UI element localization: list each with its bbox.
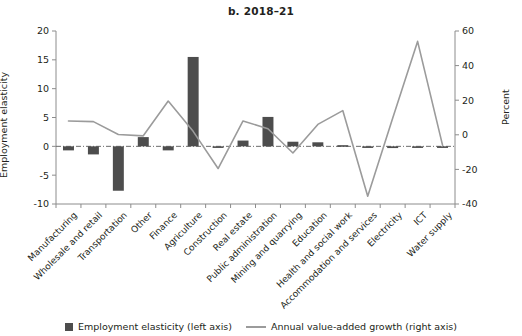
chart-title: b. 2018–21 — [0, 5, 522, 17]
bar-real-estate — [238, 141, 249, 147]
svg-text:10: 10 — [37, 83, 49, 94]
bar-other — [138, 137, 149, 146]
bar-wholesale-and-retail — [88, 146, 99, 154]
svg-text:0: 0 — [43, 141, 49, 152]
svg-text:-40: -40 — [462, 198, 478, 209]
bar-electricity — [387, 146, 398, 148]
svg-text:20: 20 — [462, 95, 474, 106]
line-swatch-icon — [246, 326, 266, 328]
svg-text:20: 20 — [37, 25, 49, 36]
svg-text:5: 5 — [43, 112, 49, 123]
right-axis-title: Percent — [500, 89, 511, 125]
bar-transportation — [113, 146, 124, 190]
bar-mining-and-quarrying — [287, 142, 298, 147]
legend-item-line: Annual value-added growth (right axis) — [246, 321, 457, 332]
axis-layer: 20151050-5-106040200-20-40 — [33, 25, 477, 209]
bar-education — [312, 142, 323, 146]
bar-construction — [213, 146, 224, 148]
bar-accommodation-and-services — [362, 146, 373, 148]
chart-legend: Employment elasticity (left axis) Annual… — [0, 321, 522, 332]
value-added-growth-line — [68, 41, 442, 196]
legend-label-line: Annual value-added growth (right axis) — [271, 321, 457, 332]
chart-root: b. 2018–21 Employment elasticity Percent… — [0, 0, 522, 336]
plot-area: 20151050-5-106040200-20-40 — [56, 31, 455, 204]
bar-finance — [163, 146, 174, 150]
line-series-value-added-growth — [68, 41, 442, 196]
chart-canvas: 20151050-5-106040200-20-40 — [56, 31, 455, 204]
bar-ict — [412, 146, 423, 148]
svg-text:15: 15 — [37, 54, 49, 65]
svg-text:-20: -20 — [462, 164, 478, 175]
svg-text:60: 60 — [462, 25, 474, 36]
bar-water-supply — [437, 146, 448, 148]
legend-label-bar: Employment elasticity (left axis) — [78, 321, 232, 332]
bar-agriculture — [188, 57, 199, 146]
svg-text:40: 40 — [462, 60, 474, 71]
left-axis-title: Employment elasticity — [0, 164, 9, 178]
legend-item-bar: Employment elasticity (left axis) — [65, 321, 232, 332]
bar-manufacturing — [63, 146, 74, 150]
bar-health-and-social-work — [337, 145, 348, 147]
bar-swatch-icon — [65, 323, 73, 331]
svg-text:0: 0 — [462, 129, 468, 140]
svg-text:-10: -10 — [33, 198, 49, 209]
svg-text:-5: -5 — [40, 170, 49, 181]
